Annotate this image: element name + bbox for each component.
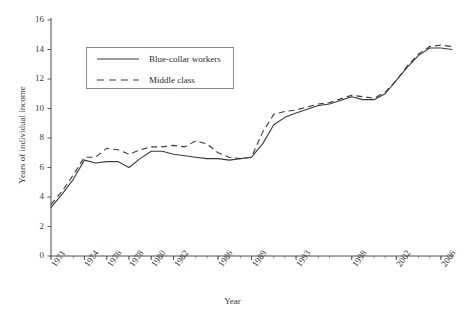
legend-label: Blue-collar workers xyxy=(149,54,221,64)
legend-label: Middle class xyxy=(149,75,195,85)
y-tick-label: 2 xyxy=(24,222,44,231)
y-tick-label: 16 xyxy=(24,15,44,24)
y-tick-label: 0 xyxy=(24,251,44,260)
chart-figure: 0246810121416 19711974197619781980198219… xyxy=(0,0,465,318)
legend-swatch-dashed-line xyxy=(95,74,141,86)
y-tick-label: 10 xyxy=(24,104,44,113)
y-tick-label: 14 xyxy=(24,45,44,54)
y-tick-label: 8 xyxy=(24,133,44,142)
legend-item-blue-collar-workers: Blue-collar workers xyxy=(87,48,233,69)
legend-item-middle-class: Middle class xyxy=(87,69,233,90)
legend-swatch-solid-line xyxy=(95,53,141,65)
y-tick-label: 4 xyxy=(24,192,44,201)
y-tick-label: 12 xyxy=(24,74,44,83)
x-axis-title: Year xyxy=(0,296,465,306)
chart-legend: Blue-collar workers Middle class xyxy=(86,47,234,89)
y-tick-label: 6 xyxy=(24,163,44,172)
y-axis-title: Years of individual income xyxy=(17,55,27,215)
